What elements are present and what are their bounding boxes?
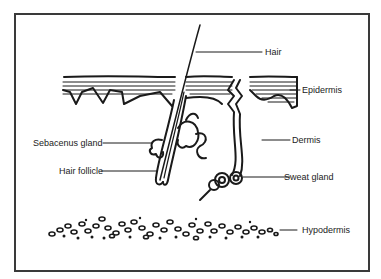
hair-shaft [160,25,200,180]
label-hypodermis: Hypodermis [302,225,350,235]
label-sweat-gland: Sweat gland [284,172,334,182]
hypodermis-layer [49,217,278,240]
label-hair: Hair [265,47,282,57]
label-sebaceous-gland: Sebacenus gland [33,138,103,148]
label-hair-follicle: Hair follicle [59,166,103,176]
label-epidermis: Epidermis [302,85,342,95]
label-dermis: Dermis [292,135,321,145]
